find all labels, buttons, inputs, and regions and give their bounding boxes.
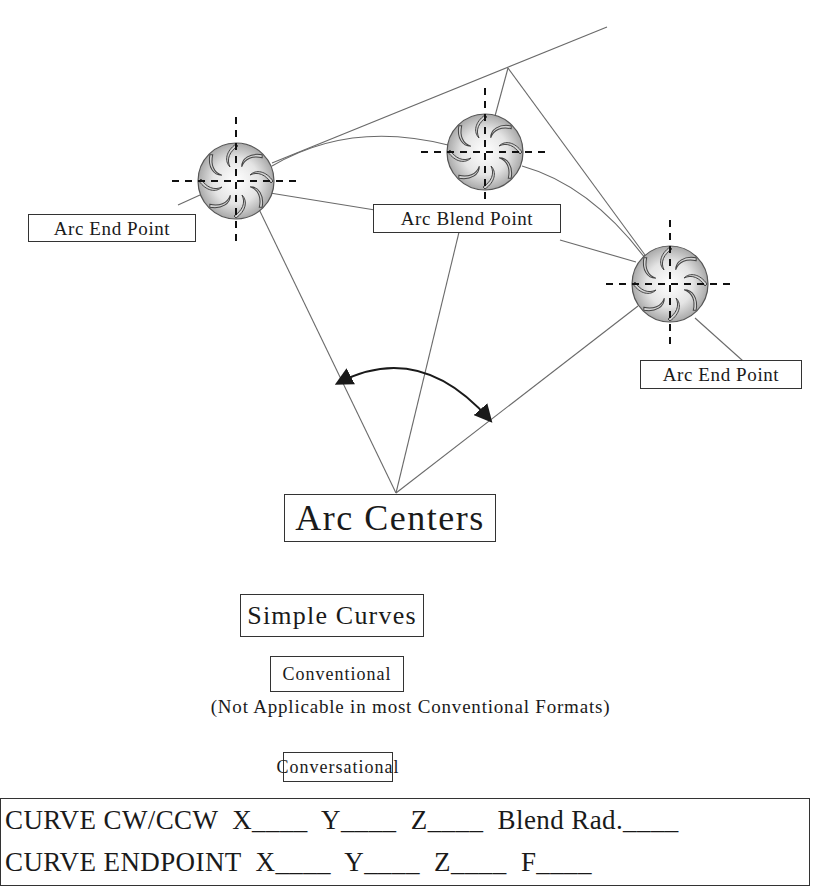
milling-cutter-icon — [606, 220, 734, 348]
conventional-heading: Conventional — [270, 656, 404, 692]
diagram-canvas — [0, 0, 821, 886]
heading-text: Conventional — [283, 665, 392, 683]
title-text: Simple Curves — [247, 603, 416, 629]
label-text: Arc End Point — [54, 219, 171, 238]
label-text: Arc End Point — [663, 365, 780, 384]
code-line-curve-cw-ccw: CURVE CW/CCW X____ Y____ Z____ Blend Rad… — [5, 805, 679, 836]
curve-geometry-diagram — [0, 0, 821, 886]
arc-end-point-left-label: Arc End Point — [28, 214, 196, 242]
heading-text: Conversational — [277, 758, 400, 776]
label-text: Arc Centers — [295, 500, 484, 536]
cropped-text-fragment — [80, 0, 420, 4]
arc-blend-point-label: Arc Blend Point — [373, 204, 561, 233]
angle-arrow-icon — [338, 368, 490, 420]
arc-centers-label: Arc Centers — [284, 494, 496, 542]
code-line-curve-endpoint: CURVE ENDPOINT X____ Y____ Z____ F____ — [5, 847, 592, 878]
arc-end-point-right-label: Arc End Point — [640, 360, 802, 389]
label-text: Arc Blend Point — [401, 209, 534, 228]
conversational-heading: Conversational — [283, 752, 393, 782]
milling-cutter-icon — [421, 88, 549, 216]
simple-curves-title: Simple Curves — [240, 594, 424, 637]
conventional-note: (Not Applicable in most Conventional For… — [84, 696, 737, 718]
conversational-code-block: CURVE CW/CCW X____ Y____ Z____ Blend Rad… — [0, 798, 810, 886]
